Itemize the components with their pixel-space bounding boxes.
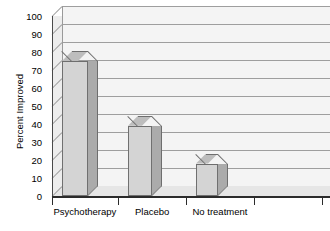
y-tick-label: 80 xyxy=(16,48,42,57)
bar-no-treatment xyxy=(196,164,218,196)
gridline xyxy=(62,6,330,7)
bar-top-edge xyxy=(62,61,88,62)
x-tick-mark xyxy=(186,198,187,205)
x-tick-label: No treatment xyxy=(193,206,248,217)
y-tick-label: 60 xyxy=(16,84,42,93)
bar-chart: Percent Improved 1009080706050403020100 … xyxy=(0,0,330,231)
y-axis-ticks: 1009080706050403020100 xyxy=(14,0,42,231)
gridline xyxy=(62,42,330,43)
gridline xyxy=(62,132,330,133)
x-axis-line xyxy=(52,196,330,198)
y-tick-label: 0 xyxy=(16,192,42,201)
bar-front-face xyxy=(196,164,218,196)
y-tick-label: 40 xyxy=(16,120,42,129)
gridline xyxy=(62,96,330,97)
y-tick-label: 30 xyxy=(16,138,42,147)
bar-placebo xyxy=(128,126,152,196)
bar-top-edge xyxy=(196,164,218,165)
bar-top-edge xyxy=(128,126,152,127)
y-tick-label: 100 xyxy=(16,12,42,21)
x-tick-label: Placebo xyxy=(135,206,169,217)
plot-area xyxy=(0,0,330,231)
y-tick-label: 70 xyxy=(16,66,42,75)
y-tick-label: 90 xyxy=(16,30,42,39)
gridline xyxy=(62,24,330,25)
x-tick-mark xyxy=(118,198,119,205)
gridline xyxy=(62,78,330,79)
y-tick-label: 50 xyxy=(16,102,42,111)
bar-side-face xyxy=(88,61,98,196)
x-tick-mark xyxy=(254,198,255,205)
x-tick-mark xyxy=(52,198,53,205)
bar-psychotherapy xyxy=(62,61,88,196)
bar-front-face xyxy=(62,61,88,196)
y-tick-label: 10 xyxy=(16,174,42,183)
y-axis-line xyxy=(52,16,53,197)
bar-back-top-edge xyxy=(72,51,88,52)
gridline xyxy=(62,60,330,61)
x-tick-mark xyxy=(322,198,323,205)
gridline xyxy=(62,150,330,151)
gridline xyxy=(62,114,330,115)
x-tick-label: Psychotherapy xyxy=(54,206,117,217)
bar-front-face xyxy=(128,126,152,196)
y-tick-label: 20 xyxy=(16,156,42,165)
